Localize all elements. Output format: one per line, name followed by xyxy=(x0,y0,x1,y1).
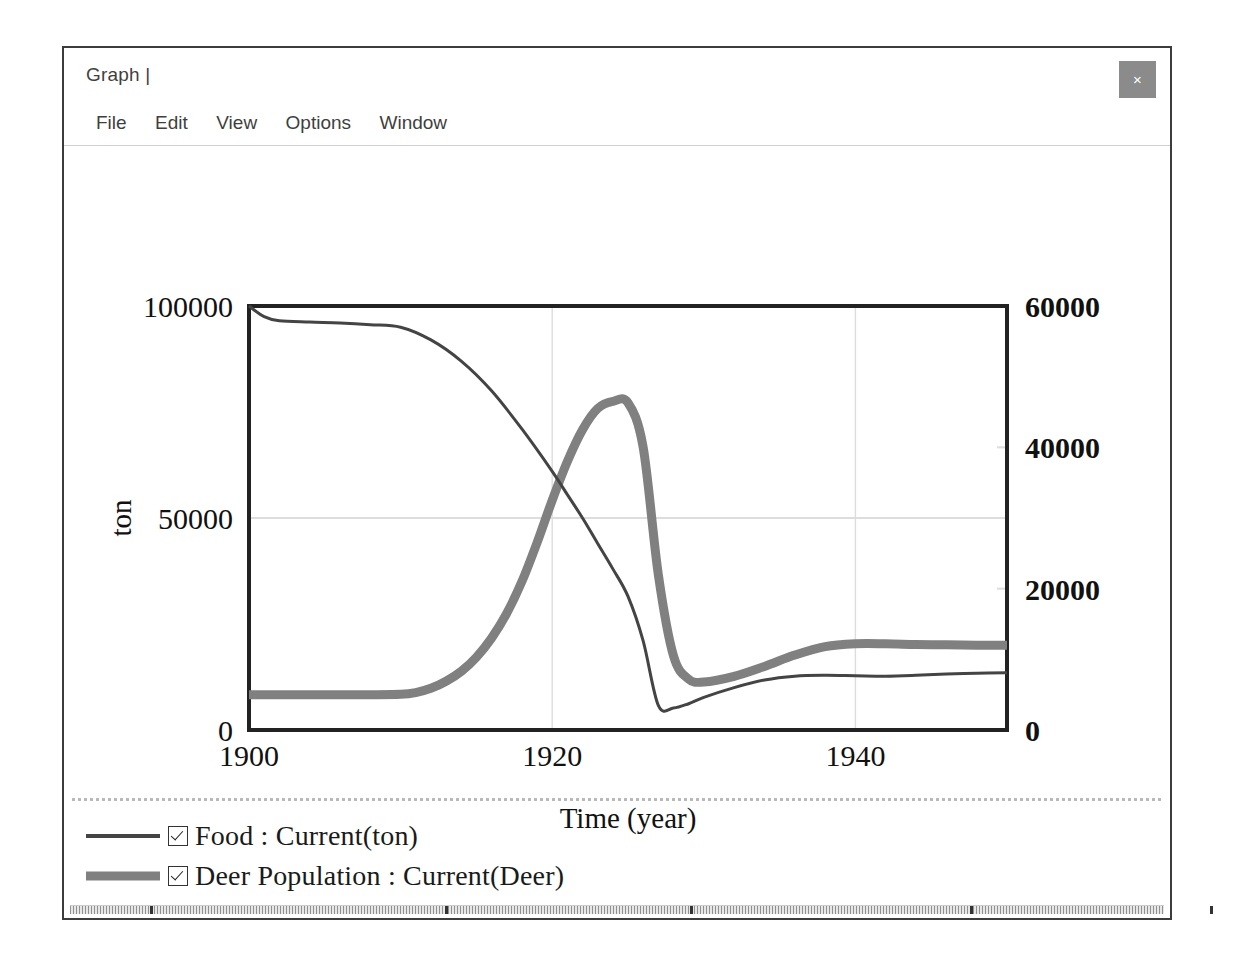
menu-item-window[interactable]: Window xyxy=(368,102,460,144)
scrollbar-tick xyxy=(970,906,973,914)
svg-text:1900: 1900 xyxy=(219,739,279,772)
chart-legend: Food : Current(ton) Deer Population : Cu… xyxy=(66,816,1168,896)
menu-item-options[interactable]: Options xyxy=(274,102,363,144)
gridlines xyxy=(249,306,1007,730)
scrollbar-tick xyxy=(445,906,448,914)
menu-bar: File Edit View Options Window xyxy=(64,102,1170,146)
svg-text:50000: 50000 xyxy=(158,502,233,535)
svg-text:1940: 1940 xyxy=(825,739,885,772)
svg-text:Deer: Deer xyxy=(1169,487,1172,549)
scrollbar-tick xyxy=(690,906,693,914)
svg-text:0: 0 xyxy=(1025,714,1040,747)
svg-text:100000: 100000 xyxy=(143,290,233,323)
deer-checkbox[interactable] xyxy=(168,866,188,886)
svg-text:60000: 60000 xyxy=(1025,290,1100,323)
chart-region: 0500001000000200004000060000190019201940… xyxy=(66,148,1168,916)
horizontal-scrollbar[interactable] xyxy=(70,905,1164,914)
window-title: Graph | xyxy=(86,64,150,86)
series-layer xyxy=(249,306,1007,711)
series-line xyxy=(249,399,1007,695)
axis-titles: tonDeerTime (year) xyxy=(105,487,1172,835)
title-bar: Graph | × xyxy=(64,48,1170,102)
menu-item-file[interactable]: File xyxy=(84,102,139,144)
scrollbar-tick xyxy=(150,906,153,914)
legend-divider xyxy=(72,798,1162,801)
graph-window: Graph | × File Edit View Options Window … xyxy=(62,46,1172,920)
axis-tick-labels: 0500001000000200004000060000190019201940 xyxy=(143,290,1100,772)
menu-item-view[interactable]: View xyxy=(204,102,269,144)
series-line xyxy=(249,306,1007,711)
menu-item-edit[interactable]: Edit xyxy=(143,102,200,144)
svg-text:1920: 1920 xyxy=(522,739,582,772)
legend-item-food[interactable]: Food : Current(ton) xyxy=(80,816,1168,856)
legend-label-food: Food : Current(ton) xyxy=(195,820,418,852)
close-icon[interactable]: × xyxy=(1119,61,1156,98)
line-chart: 0500001000000200004000060000190019201940… xyxy=(66,148,1172,848)
svg-text:20000: 20000 xyxy=(1025,573,1100,606)
legend-label-deer: Deer Population : Current(Deer) xyxy=(195,860,564,892)
deer-line-swatch-icon xyxy=(80,866,162,886)
food-checkbox[interactable] xyxy=(168,826,188,846)
legend-item-deer[interactable]: Deer Population : Current(Deer) xyxy=(80,856,1168,896)
food-line-swatch-icon xyxy=(80,826,162,846)
scrollbar-tick xyxy=(1210,906,1213,914)
svg-text:ton: ton xyxy=(105,499,137,537)
svg-text:40000: 40000 xyxy=(1025,431,1100,464)
